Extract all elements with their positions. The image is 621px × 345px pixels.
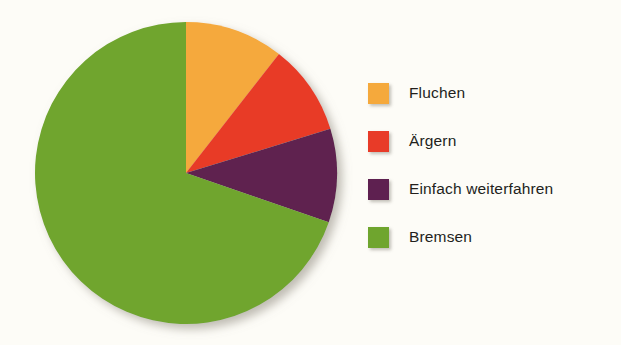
chart-legend: FluchenÄrgernEinfach weiterfahrenBremsen <box>368 82 618 248</box>
pie-chart-svg <box>0 0 380 345</box>
pie-slice-group <box>35 22 337 324</box>
pie-chart <box>0 0 380 345</box>
legend-item-label: Bremsen <box>409 229 472 245</box>
chart-canvas: FluchenÄrgernEinfach weiterfahrenBremsen <box>0 0 621 345</box>
legend-swatch-icon <box>368 227 389 248</box>
legend-item-label: Fluchen <box>409 85 465 101</box>
legend-item[interactable]: Ärgern <box>368 130 618 152</box>
legend-swatch-icon <box>368 131 389 152</box>
legend-item[interactable]: Einfach weiterfahren <box>368 178 618 200</box>
legend-item-label: Ärgern <box>409 133 456 149</box>
legend-swatch-icon <box>368 179 389 200</box>
legend-swatch-icon <box>368 83 389 104</box>
legend-item[interactable]: Bremsen <box>368 226 618 248</box>
legend-item[interactable]: Fluchen <box>368 82 618 104</box>
legend-item-label: Einfach weiterfahren <box>409 181 553 197</box>
